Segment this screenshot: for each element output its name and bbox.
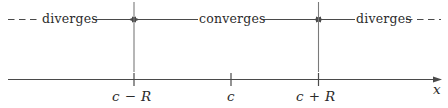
axis-tick-label-left-endpoint: c − R (112, 90, 152, 104)
region-label-middle-converges: converges (199, 13, 266, 26)
series-convergence-number-line-figure: diverges converges diverges c − R c c + … (0, 0, 448, 108)
region-label-left-diverges: diverges (42, 13, 98, 26)
axis-tick-label-center: c (227, 90, 235, 104)
region-label-right-diverges: diverges (356, 13, 412, 26)
axis-tick-label-right-endpoint: c + R (296, 90, 336, 104)
axis-variable-label: x (433, 83, 441, 97)
